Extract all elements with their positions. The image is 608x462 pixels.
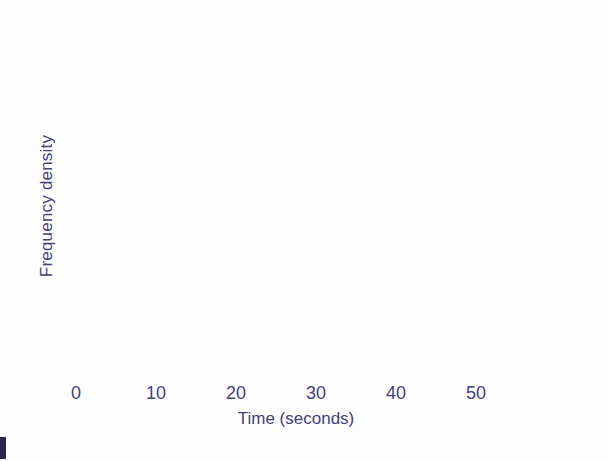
x-tick-label-0: 0	[56, 383, 96, 404]
x-tick-label-20: 20	[216, 383, 256, 404]
histogram-figure: 0 10 20 30 40 50 Frequency density Time …	[0, 0, 608, 462]
y-axis-title: Frequency density	[37, 96, 57, 316]
x-tick-label-10: 10	[136, 383, 176, 404]
x-tick-label-30: 30	[296, 383, 336, 404]
x-tick-label-50: 50	[456, 383, 496, 404]
x-tick-label-40: 40	[376, 383, 416, 404]
page-edge-mark	[0, 437, 6, 459]
x-axis-title: Time (seconds)	[146, 409, 446, 429]
